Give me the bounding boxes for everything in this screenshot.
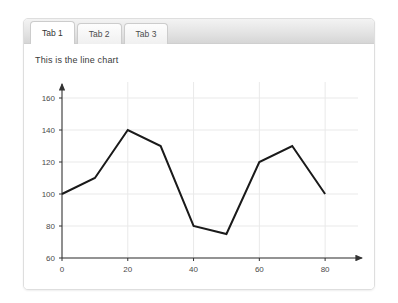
chart-tick-labels: 6080100120140160020406080: [42, 94, 330, 274]
tab-tab-2[interactable]: Tab 2: [77, 23, 122, 44]
tab-label: Tab 1: [42, 28, 63, 38]
svg-text:20: 20: [123, 265, 132, 274]
tab-bar: Tab 1 Tab 2 Tab 3: [24, 19, 374, 44]
tab-panel: Tab 1 Tab 2 Tab 3 This is the line chart…: [23, 18, 375, 290]
screen: Tab 1 Tab 2 Tab 3 This is the line chart…: [0, 0, 398, 303]
tab-tab-1[interactable]: Tab 1: [30, 21, 75, 44]
svg-text:0: 0: [60, 265, 65, 274]
svg-text:60: 60: [46, 254, 55, 263]
chart-title: This is the line chart: [35, 55, 118, 65]
svg-text:60: 60: [255, 265, 264, 274]
svg-text:80: 80: [46, 222, 55, 231]
tab-label: Tab 2: [89, 29, 110, 39]
line-chart: 6080100120140160020406080: [24, 74, 375, 286]
tab-tab-3[interactable]: Tab 3: [124, 23, 169, 44]
chart-ticks: [59, 98, 325, 261]
svg-text:100: 100: [42, 190, 56, 199]
tab-label: Tab 3: [136, 29, 157, 39]
svg-text:140: 140: [42, 126, 56, 135]
chart-canvas: 6080100120140160020406080: [24, 74, 375, 286]
tab-content-panel: This is the line chart 60801001201401600…: [24, 44, 374, 289]
svg-text:80: 80: [321, 265, 330, 274]
chart-axes: [62, 84, 362, 258]
svg-text:120: 120: [42, 158, 56, 167]
svg-text:160: 160: [42, 94, 56, 103]
chart-gridlines: [62, 82, 358, 258]
svg-text:40: 40: [189, 265, 198, 274]
